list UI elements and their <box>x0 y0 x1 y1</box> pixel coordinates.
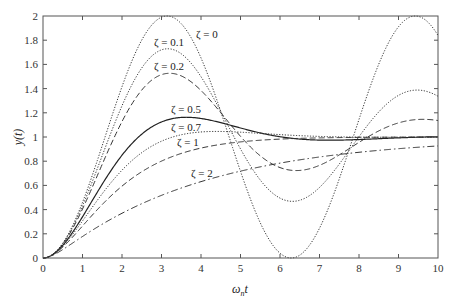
label-zeta-0-5: ζ = 0.5 <box>171 103 202 116</box>
label-zeta-2: ζ = 2 <box>191 167 213 180</box>
x-tick-label: 2 <box>119 262 125 274</box>
label-zeta-0-1: ζ = 0.1 <box>154 36 184 49</box>
label-zeta-0-2: ζ = 0.2 <box>154 60 184 73</box>
curve-zeta-0-5 <box>43 117 438 258</box>
y-tick-label: 0.8 <box>24 155 38 167</box>
curve-zeta-0-1 <box>43 49 438 258</box>
x-tick-label: 3 <box>159 262 165 274</box>
x-tick-label: 9 <box>396 262 402 274</box>
y-tick-label: 0 <box>33 252 39 264</box>
y-axis-label: y(t) <box>11 129 25 147</box>
y-tick-label: 1.6 <box>24 58 38 70</box>
y-tick-label: 1.4 <box>24 83 38 95</box>
curve-zeta-0-7 <box>43 131 438 258</box>
y-tick-label: 1 <box>33 131 39 143</box>
x-axis-label: ωnt <box>232 282 248 298</box>
x-tick-label: 1 <box>80 262 86 274</box>
curves <box>43 16 438 258</box>
x-tick-label: 7 <box>317 262 323 274</box>
y-tick-label: 0.4 <box>24 204 38 216</box>
x-tick-label: 5 <box>238 262 244 274</box>
x-tick-label: 4 <box>198 262 204 274</box>
axis-ticks: 01234567891000.20.40.60.811.21.41.61.82 <box>24 10 444 274</box>
label-zeta-0-7: ζ = 0.7 <box>171 121 202 134</box>
x-tick-label: 8 <box>356 262 362 274</box>
x-tick-label: 6 <box>277 262 283 274</box>
step-response-chart: 01234567891000.20.40.60.811.21.41.61.82 … <box>0 0 454 303</box>
y-tick-label: 1.2 <box>24 107 38 119</box>
x-tick-label: 0 <box>40 262 46 274</box>
label-zeta-0: ζ = 0 <box>196 28 218 41</box>
y-tick-label: 1.8 <box>24 34 38 46</box>
curve-zeta-2 <box>43 146 438 258</box>
y-tick-label: 2 <box>33 10 39 22</box>
curve-zeta-0-2 <box>43 73 438 258</box>
y-tick-label: 0.2 <box>24 228 38 240</box>
curve-zeta-1 <box>43 137 438 258</box>
x-tick-label: 10 <box>433 262 445 274</box>
y-tick-label: 0.6 <box>24 179 38 191</box>
label-zeta-1: ζ = 1 <box>177 136 199 149</box>
